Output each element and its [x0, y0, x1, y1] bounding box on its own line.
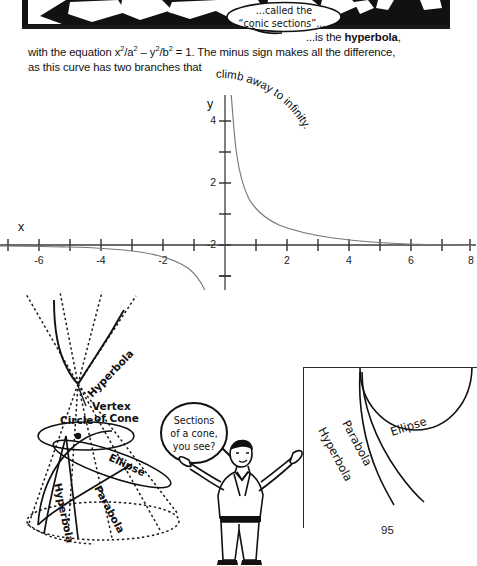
- narration-keyword-hyperbola: hyperbola: [345, 31, 398, 43]
- cone-section-circle: [38, 422, 134, 450]
- hyperbola-graph: -6 -4 -2 2 4 6 8 4 2 -2 -4 x y: [0, 95, 476, 290]
- cone-apex-dot: [75, 433, 81, 439]
- cartoon-man-presenter: Sections of a cone, you see?: [160, 400, 305, 566]
- page-number: 95: [381, 524, 394, 536]
- ytick-label: 2: [210, 176, 216, 188]
- ytick-label: 4: [210, 114, 216, 126]
- cone-label-circle: Circle: [60, 414, 93, 426]
- xtick-label: 4: [346, 254, 352, 266]
- xtick-label: 2: [284, 254, 290, 266]
- conic-curves-inset: Ellipse Parabola Hyperbola: [303, 367, 477, 528]
- bubble-line-1: ...called the: [256, 5, 313, 16]
- narration-line-0: ...is the hyperbola,: [306, 30, 401, 45]
- y-axis-label: y: [207, 97, 214, 111]
- equation-part-d: /b: [159, 46, 168, 58]
- inset-label-ellipse: Ellipse: [389, 414, 429, 439]
- xtick-label: 8: [468, 254, 474, 266]
- equation-part-e: = 1. The minus sign makes all the differ…: [173, 46, 396, 58]
- equation-part-a: with the equation x: [28, 46, 120, 58]
- equation-part-c: – y: [138, 46, 156, 58]
- bubble-line-2: “conic sections”...: [239, 18, 326, 29]
- cone-label-hyperbola-upper: Hyperbola: [85, 347, 136, 399]
- narration-prefix: ...is the: [306, 31, 345, 43]
- narration-line-2: as this curve has two branches that: [28, 60, 202, 75]
- xtick-label: 6: [408, 254, 414, 266]
- bubble2-line-3: you see?: [173, 441, 216, 452]
- xtick-label: -6: [34, 254, 43, 266]
- hyperbola-branch-positive: [231, 95, 476, 246]
- y-axis-tick-labels: 4 2 -2 -4: [207, 114, 217, 290]
- ytick-label: -2: [207, 238, 216, 250]
- cone-label-vertex-line1: Vertex: [92, 400, 131, 412]
- x-axis-label: x: [18, 220, 25, 234]
- hyperbola-branch-negative: [0, 246, 219, 290]
- equation-part-b: /a: [124, 46, 133, 58]
- narration-suffix: ,: [398, 31, 401, 43]
- narration-line-1: with the equation x2/a2 – y2/b2 = 1. The…: [28, 45, 395, 60]
- bubble2-line-2: of a cone,: [170, 428, 217, 439]
- xtick-label: -4: [96, 254, 105, 266]
- x-axis-tick-labels: -6 -4 -2 2 4 6 8: [34, 254, 474, 266]
- bubble2-line-1: Sections: [174, 415, 215, 426]
